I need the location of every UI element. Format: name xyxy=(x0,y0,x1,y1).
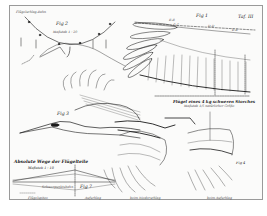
fig4-bottom-label: beim Aufschlag xyxy=(207,197,232,200)
fig1-caption-sub: Maßstab 1/5 natürlicher Größe xyxy=(184,105,234,108)
fig3-label: Fig 3 xyxy=(57,112,69,117)
fig5-wing-downstroke xyxy=(104,131,167,192)
fig2-flight-path xyxy=(21,17,125,66)
fig7-label-upstroke: Aufschlag xyxy=(85,197,101,200)
fig1-label: Fig 1 xyxy=(196,14,208,19)
fig1-section-d: D-D xyxy=(208,25,214,28)
fig2-label: Fig 2 xyxy=(56,22,68,27)
plate-number: Taf. III xyxy=(238,15,253,20)
fig1-section-e: E-E xyxy=(232,29,238,32)
fig1-wing xyxy=(122,21,255,96)
fig1-section-c: C-C xyxy=(173,24,179,27)
fig5-bottom-label: beim Niederschlag xyxy=(130,197,161,200)
fig2-scale: Maßstab 1 : 20 xyxy=(53,31,77,34)
fig7-scale: Maßstab 1 : 10 xyxy=(28,167,54,170)
fig7-label: Fig 7 xyxy=(80,185,92,190)
fig3-stork xyxy=(20,70,195,138)
fig1-section-b: B-B xyxy=(169,19,175,22)
fig4-label: Fig 4 xyxy=(236,162,245,166)
fig7-label-tip: Flügelspitze xyxy=(28,197,48,200)
fig7-title: Absolute Wege der Flügelteile xyxy=(14,160,88,164)
fig7-label-path: Schwerpunktsbahn xyxy=(42,186,73,189)
fig2-top-label: Flügelschlag-Bahn xyxy=(16,11,46,14)
